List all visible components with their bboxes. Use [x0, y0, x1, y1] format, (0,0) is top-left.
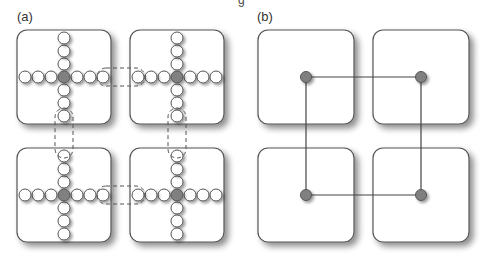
center-node — [171, 189, 183, 201]
node-b-br — [416, 190, 427, 201]
node — [58, 110, 70, 122]
node — [171, 215, 183, 227]
node — [197, 189, 209, 201]
node — [58, 215, 70, 227]
node — [158, 189, 170, 201]
node — [145, 189, 157, 201]
node — [171, 163, 183, 175]
node — [132, 71, 144, 83]
center-node — [171, 71, 183, 83]
node — [132, 189, 144, 201]
node — [97, 189, 109, 201]
node — [58, 202, 70, 214]
node — [210, 189, 222, 201]
node — [19, 71, 31, 83]
node — [45, 71, 57, 83]
node — [71, 71, 83, 83]
node — [171, 176, 183, 188]
node — [19, 189, 31, 201]
node — [84, 71, 96, 83]
node — [171, 84, 183, 96]
node — [171, 150, 183, 162]
node — [158, 71, 170, 83]
node — [58, 45, 70, 57]
node — [197, 71, 209, 83]
figure-canvas: g — [0, 0, 490, 261]
node — [58, 84, 70, 96]
node — [97, 71, 109, 83]
panel-b — [258, 30, 469, 242]
node — [171, 228, 183, 240]
node — [71, 189, 83, 201]
node — [32, 71, 44, 83]
node — [58, 97, 70, 109]
node — [145, 71, 157, 83]
center-node — [58, 189, 70, 201]
node-b-bl — [301, 190, 312, 201]
node-b-tr — [416, 72, 427, 83]
node — [171, 110, 183, 122]
node — [58, 176, 70, 188]
node — [171, 32, 183, 44]
node — [210, 71, 222, 83]
node — [58, 150, 70, 162]
node — [58, 32, 70, 44]
panel-a — [17, 30, 224, 242]
node — [184, 71, 196, 83]
node — [32, 189, 44, 201]
node — [171, 58, 183, 70]
node — [58, 58, 70, 70]
node — [171, 202, 183, 214]
center-node — [58, 71, 70, 83]
node — [171, 45, 183, 57]
node — [58, 163, 70, 175]
node-b-tl — [301, 72, 312, 83]
node — [84, 189, 96, 201]
node — [184, 189, 196, 201]
node — [171, 97, 183, 109]
node — [45, 189, 57, 201]
cut-off-title: g — [238, 0, 245, 7]
node — [58, 228, 70, 240]
